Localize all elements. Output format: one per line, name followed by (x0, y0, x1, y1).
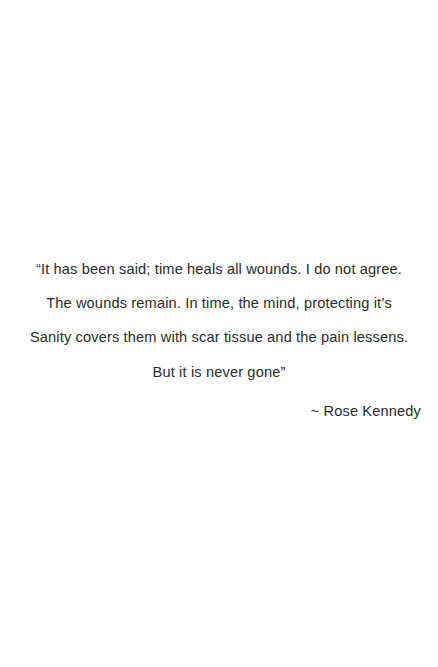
quote-block: “It has been said; time heals all wounds… (0, 252, 438, 428)
quote-line-3: Sanity covers them with scar tissue and … (8, 320, 430, 354)
quote-line-4: But it is never gone” (8, 355, 430, 389)
quote-line-1: “It has been said; time heals all wounds… (8, 252, 430, 286)
quote-line-2: The wounds remain. In time, the mind, pr… (8, 286, 430, 320)
quote-page: “It has been said; time heals all wounds… (0, 0, 438, 667)
quote-attribution: ~ Rose Kennedy (8, 394, 430, 428)
